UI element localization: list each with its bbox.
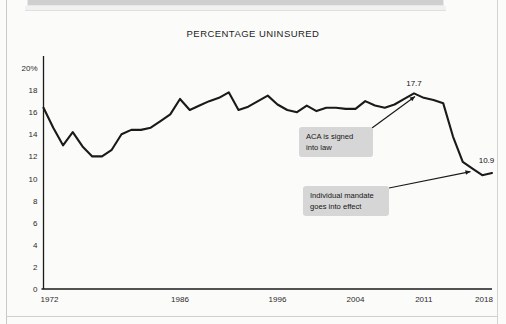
data-point-labels: 17.710.9 xyxy=(406,79,495,164)
data-series-line xyxy=(44,92,493,175)
y-tick-4: 4 xyxy=(33,241,38,250)
x-tick-1986: 1986 xyxy=(171,295,189,304)
y-tick-20: 20% xyxy=(21,64,37,73)
line-chart-svg: 02468101214161820% 197219861996200420112… xyxy=(0,0,506,324)
x-tick-1972: 1972 xyxy=(41,295,59,304)
y-axis-tick-labels: 02468101214161820% xyxy=(21,64,38,294)
y-tick-0: 0 xyxy=(33,285,38,294)
chart-plot-area: 02468101214161820% 197219861996200420112… xyxy=(0,0,506,324)
y-tick-18: 18 xyxy=(29,86,38,95)
annotation-aca-signed: ACA is signed into law xyxy=(299,127,373,157)
annotation-aca-line1: ACA is signed xyxy=(306,131,367,142)
annotation-mandate-line1: Individual mandate xyxy=(310,190,383,201)
x-tick-1996: 1996 xyxy=(269,295,287,304)
y-tick-12: 12 xyxy=(29,152,38,161)
x-tick-2018: 2018 xyxy=(475,295,493,304)
annotation-individual-mandate: Individual mandate goes into effect xyxy=(303,186,389,216)
x-axis-tick-labels: 197219861996200420112018 xyxy=(41,295,494,304)
leader-line-mandate-arrowhead xyxy=(465,170,470,174)
y-tick-6: 6 xyxy=(33,219,38,228)
x-tick-2004: 2004 xyxy=(347,295,365,304)
data-label-10.9: 10.9 xyxy=(479,156,495,165)
annotation-mandate-line2: goes into effect xyxy=(310,201,383,212)
scanned-page: PERCENTAGE UNINSURED 02468101214161820% … xyxy=(0,0,506,324)
y-tick-2: 2 xyxy=(33,263,38,272)
leader-line-aca xyxy=(372,96,415,128)
y-tick-10: 10 xyxy=(29,175,38,184)
y-tick-14: 14 xyxy=(29,130,38,139)
y-tick-16: 16 xyxy=(29,108,38,117)
data-label-17.7: 17.7 xyxy=(406,79,422,88)
y-tick-8: 8 xyxy=(33,197,38,206)
annotation-aca-line2: into law xyxy=(306,142,367,153)
leader-line-mandate xyxy=(389,172,471,188)
x-tick-2011: 2011 xyxy=(415,295,433,304)
